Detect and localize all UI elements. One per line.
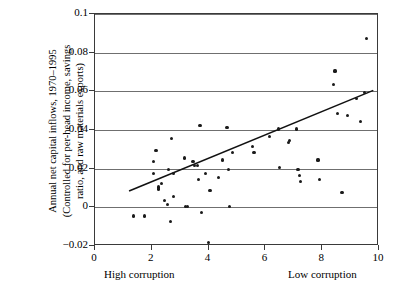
data-point <box>132 214 135 217</box>
data-point <box>333 69 336 72</box>
data-point <box>365 37 368 40</box>
x-axis-tick-mark <box>94 245 95 250</box>
y-axis-tick-label: 0.02 <box>28 162 88 173</box>
x-axis-tick-label: 6 <box>244 251 284 263</box>
x-axis-tick-label: 4 <box>188 251 228 263</box>
plot-area <box>94 13 378 245</box>
y-axis-tick-label: 0.06 <box>28 84 88 95</box>
data-point <box>186 205 189 208</box>
x-axis-tick-mark <box>321 245 322 250</box>
data-point <box>207 241 210 244</box>
data-point <box>296 168 299 171</box>
data-point <box>166 203 169 206</box>
data-point <box>143 214 146 217</box>
data-point <box>225 126 228 129</box>
data-point <box>198 124 201 127</box>
data-point <box>295 127 298 130</box>
x-axis-tick-mark <box>151 245 152 250</box>
data-point <box>183 156 186 159</box>
scatter-chart-figure: Annual net capital inflows, 1970–1995 (C… <box>0 0 405 297</box>
x-axis-tick-mark <box>378 245 379 250</box>
data-point <box>152 172 155 175</box>
data-point <box>359 120 362 123</box>
x-axis-tick-mark <box>208 245 209 250</box>
x-axis-tick-label: 0 <box>74 251 114 263</box>
data-point <box>172 195 175 198</box>
x-axis-tick-label: 10 <box>358 251 398 263</box>
data-point <box>154 149 157 152</box>
y-axis-tick-label: 0.08 <box>28 46 88 57</box>
data-point <box>277 127 280 130</box>
data-point <box>252 151 255 154</box>
y-axis-label-container: Annual net capital inflows, 1970–1995 (C… <box>0 0 52 270</box>
data-point <box>355 97 358 100</box>
data-point <box>217 176 220 179</box>
data-point <box>172 172 175 175</box>
data-point <box>316 158 319 161</box>
y-axis-tick-label: 0 <box>28 200 88 211</box>
high-corruption-annotation: High corruption <box>104 268 175 280</box>
x-axis-tick-label: 8 <box>301 251 341 263</box>
trend-line <box>95 14 379 246</box>
data-point <box>318 178 321 181</box>
x-axis-tick-mark <box>264 245 265 250</box>
y-axis-tick-label: 0.04 <box>28 123 88 134</box>
y-axis-tick-label: 0.1 <box>28 7 88 18</box>
low-corruption-annotation: Low corruption <box>288 268 357 280</box>
data-point <box>200 211 203 214</box>
x-axis-tick-label: 2 <box>131 251 171 263</box>
y-axis-tick-label: −0.02 <box>28 239 88 250</box>
data-point <box>298 174 301 177</box>
